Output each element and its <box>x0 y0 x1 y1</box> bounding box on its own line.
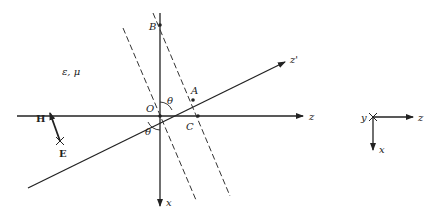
point-O <box>158 114 162 118</box>
label-O: O <box>146 103 154 114</box>
label-H-field: H <box>36 113 45 124</box>
label-theta-lower: θ <box>145 126 151 137</box>
label-z-prime-axis: z' <box>289 54 298 65</box>
point-C <box>196 114 200 118</box>
ref-label-z: z <box>417 112 424 123</box>
ref-label-x: x <box>379 144 385 155</box>
H-vector-arrow <box>50 113 60 141</box>
label-E-field: E <box>59 148 67 159</box>
E-vector-cross-icon <box>56 137 64 145</box>
label-medium: ε, μ <box>62 66 80 77</box>
reference-axes: y z x <box>360 112 424 155</box>
label-theta-upper: θ <box>167 95 173 106</box>
point-A <box>191 98 195 102</box>
label-z-axis: z <box>308 111 315 122</box>
label-A: A <box>190 85 198 96</box>
z-prime-axis <box>28 62 285 188</box>
point-B <box>158 23 162 27</box>
label-x-axis: x <box>166 197 172 208</box>
ref-label-y: y <box>360 112 367 123</box>
label-B: B <box>148 21 156 32</box>
wave-diagram: B A C O θ θ z x z' ε, μ H E y z x <box>0 0 440 216</box>
label-C: C <box>186 121 194 132</box>
wavefront-dashed-right <box>153 13 230 196</box>
